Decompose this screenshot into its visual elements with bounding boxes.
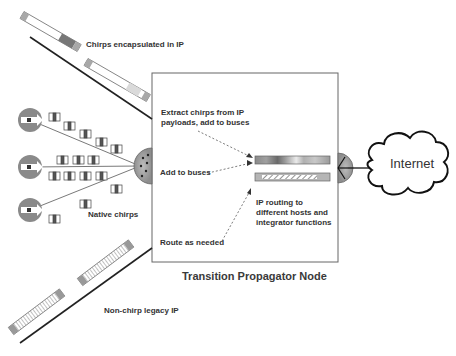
diagram-title: Transition Propagator Node bbox=[182, 271, 327, 281]
encapsulated-ip-packets bbox=[20, 12, 152, 119]
ip-link-bottom bbox=[20, 248, 152, 343]
internet-label: Internet bbox=[390, 159, 434, 169]
chirp-bus bbox=[255, 156, 330, 164]
label-chirps-encapsulated: Chirps encapsulated in IP bbox=[86, 40, 184, 50]
label-route-as-needed: Route as needed bbox=[160, 238, 224, 248]
label-native-chirps: Native chirps bbox=[88, 210, 138, 220]
legacy-ip-packets bbox=[8, 240, 152, 343]
label-ip-routing: IP routing to different hosts and integr… bbox=[256, 198, 332, 228]
ip-bus bbox=[255, 173, 330, 181]
chirp-source-1 bbox=[18, 108, 43, 132]
chirp-source-2 bbox=[18, 155, 43, 179]
native-chirp-packets bbox=[49, 113, 122, 223]
ingress-hub bbox=[134, 148, 152, 184]
chirp-source-3 bbox=[18, 198, 43, 222]
diagram-canvas bbox=[0, 0, 456, 356]
label-add-to-buses: Add to buses bbox=[160, 168, 211, 178]
label-non-chirp-legacy: Non-chirp legacy IP bbox=[104, 306, 179, 316]
label-extract-chirps: Extract chirps from IP payloads, add to … bbox=[161, 108, 249, 128]
